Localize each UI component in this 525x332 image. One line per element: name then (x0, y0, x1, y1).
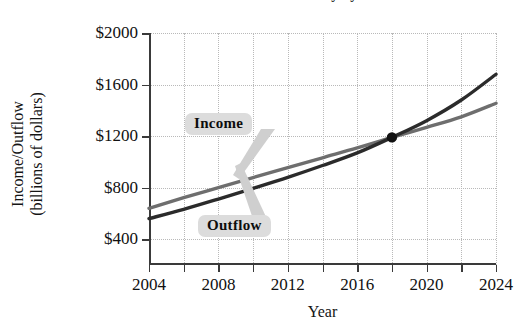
chart-figure: Cash Flow of the Social Security System … (0, 0, 525, 332)
x-axis-tick-label: 2024 (479, 275, 513, 295)
series-label-income: Income (185, 113, 252, 135)
crossover-point-marker (387, 132, 397, 142)
chart-title: Cash Flow of the Social Security System (0, 0, 525, 3)
y-axis-tick (142, 85, 149, 87)
y-axis-tick (142, 33, 149, 35)
x-axis-tick (496, 265, 497, 272)
x-axis-tick (357, 265, 358, 272)
x-axis-tick (288, 265, 289, 272)
x-axis-tick-label: 2004 (132, 275, 166, 295)
y-axis-tick (142, 136, 149, 138)
y-axis-tick (142, 188, 149, 190)
x-axis-tick (392, 265, 393, 272)
y-axis-title: Income/Outflow (billions of dollars) (8, 34, 46, 274)
y-axis-title-line2: (billions of dollars) (27, 34, 46, 274)
y-axis-tick-label: $1600 (96, 75, 139, 95)
x-axis-tick (149, 265, 150, 272)
series-label-outflow: Outflow (198, 215, 271, 237)
y-axis-title-line1: Income/Outflow (8, 34, 27, 274)
x-axis-tick (184, 265, 185, 272)
y-axis-tick (142, 239, 149, 241)
x-axis-tick-label: 2012 (271, 275, 305, 295)
x-axis-title: Year (149, 303, 496, 321)
series-line-outflow (149, 74, 496, 218)
y-axis-tick-label: $1200 (96, 126, 139, 146)
x-axis-tick (253, 265, 254, 272)
x-axis-tick (427, 265, 428, 272)
x-axis-tick-label: 2020 (410, 275, 444, 295)
y-axis-tick-label: $400 (104, 229, 138, 249)
x-axis-tick (461, 265, 462, 272)
x-axis-tick (323, 265, 324, 272)
x-axis-tick (218, 265, 219, 272)
y-axis-tick-label: $800 (104, 178, 138, 198)
y-axis-tick-label: $2000 (96, 23, 139, 43)
x-axis-tick-label: 2008 (201, 275, 235, 295)
x-axis-tick-label: 2016 (340, 275, 374, 295)
gridline-vertical (496, 33, 497, 265)
